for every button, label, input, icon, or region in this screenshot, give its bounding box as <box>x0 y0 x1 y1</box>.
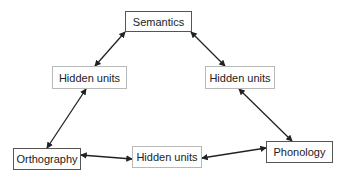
edge-hidden_left-orthography <box>47 89 86 148</box>
node-hidden-bottom: Hidden units <box>132 146 202 168</box>
node-label: Orthography <box>16 153 77 165</box>
node-label: Hidden units <box>59 72 120 84</box>
node-label: Semantics <box>133 16 184 28</box>
edge-orthography-hidden_bottom <box>81 155 132 159</box>
node-phonology: Phonology <box>266 141 333 163</box>
edge-semantics-hidden_right <box>191 32 225 66</box>
edge-hidden_bottom-phonology <box>202 148 266 158</box>
node-hidden-left: Hidden units <box>52 66 127 89</box>
node-hidden-right: Hidden units <box>205 66 275 89</box>
node-label: Hidden units <box>209 72 270 84</box>
edge-semantics-hidden_left <box>95 32 125 66</box>
node-orthography: Orthography <box>13 148 81 170</box>
node-label: Hidden units <box>136 151 197 163</box>
node-label: Phonology <box>274 146 326 158</box>
edge-hidden_right-phonology <box>239 89 292 141</box>
node-semantics: Semantics <box>125 11 192 32</box>
